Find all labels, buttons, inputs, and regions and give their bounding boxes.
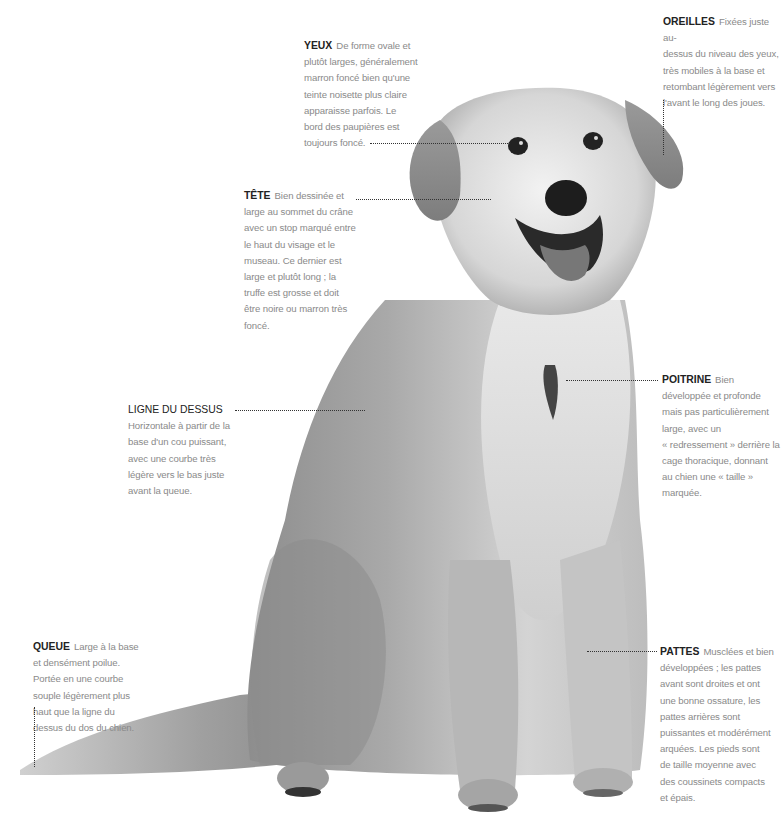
annotation-term: QUEUE	[33, 641, 70, 652]
annotation-text: marquée.	[662, 485, 784, 501]
leader-line-ligne-du-dessus	[235, 410, 365, 411]
annotation-text: Musclées et bien	[703, 646, 773, 657]
annotation-text: souple légèrement plus	[33, 688, 183, 704]
dog-anatomy-diagram: YEUXDe forme ovale et plutôt larges, gén…	[0, 0, 784, 840]
annotation-text: teinte noisette plus claire	[304, 87, 514, 103]
annotation-text: le haut du visage et le	[244, 237, 394, 253]
annotation-text: retombant légèrement vers	[663, 79, 784, 95]
annotation-text: légère vers le bas juste	[128, 467, 258, 483]
annotation-term: LIGNE DU DESSUS	[128, 404, 223, 415]
annotation-text: puissantes et modérément	[660, 725, 784, 741]
annotation-term: PATTES	[660, 646, 699, 657]
annotation-tete: TÊTEBien dessinée et large au sommet du …	[244, 188, 394, 334]
annotation-oreilles: OREILLESFixées juste au- dessus du nivea…	[663, 14, 784, 111]
annotation-text: base d'un cou puissant,	[128, 434, 258, 450]
annotation-text: de taille moyenne avec	[660, 757, 784, 773]
annotation-ligne-du-dessus: LIGNE DU DESSUS Horizontale à partir de …	[128, 402, 258, 499]
annotation-text: large au sommet du crâne	[244, 204, 394, 220]
annotation-pattes: PATTESMusclées et bien développées ; les…	[660, 644, 784, 806]
annotation-term: YEUX	[304, 40, 332, 51]
annotation-text: De forme ovale et	[336, 40, 410, 51]
annotation-text: des coussinets compacts	[660, 774, 784, 790]
annotation-text: Horizontale à partir de la	[128, 418, 258, 434]
annotation-text: apparaisse parfois. Le	[304, 103, 514, 119]
annotation-text: Bien dessinée et	[275, 190, 344, 201]
annotation-text: et densément poilue.	[33, 655, 183, 671]
leader-line-yeux	[370, 143, 510, 144]
annotation-poitrine: POITRINEBien développée et profonde mais…	[662, 372, 784, 502]
annotation-yeux: YEUXDe forme ovale et plutôt larges, gén…	[304, 38, 514, 151]
annotation-queue: QUEUELarge à la base et densément poilue…	[33, 639, 183, 736]
annotation-text: large, avec un	[662, 421, 784, 437]
leader-line-tete	[356, 199, 491, 200]
annotation-text: une bonne ossature, les	[660, 693, 784, 709]
annotation-text: « redressement » derrière la	[662, 437, 784, 453]
annotation-text: truffe est grosse et doit	[244, 285, 394, 301]
annotation-text: avant la queue.	[128, 483, 258, 499]
annotation-text: développée et profonde	[662, 388, 784, 404]
annotation-text: au chien une « taille »	[662, 469, 784, 485]
annotation-text: et épais.	[660, 790, 784, 806]
annotation-text: l'avant le long des joues.	[663, 95, 784, 111]
annotation-text: haut que la ligne du	[33, 704, 183, 720]
annotation-text: développées ; les pattes	[660, 660, 784, 676]
annotation-text: avec un stop marqué entre	[244, 220, 394, 236]
annotation-text: avant sont droites et ont	[660, 676, 784, 692]
leader-line-oreilles	[663, 100, 664, 155]
annotation-text: Bien	[715, 374, 734, 385]
annotation-text: mais pas particulièrement	[662, 404, 784, 420]
leader-line-poitrine	[566, 380, 658, 381]
annotation-term: OREILLES	[663, 16, 715, 27]
annotation-text: arquées. Les pieds sont	[660, 741, 784, 757]
annotation-term: POITRINE	[662, 374, 711, 385]
annotation-text: dessus du niveau des yeux,	[663, 46, 784, 62]
annotation-text: avec une courbe très	[128, 451, 258, 467]
annotation-text: bord des paupières est	[304, 119, 514, 135]
leader-line-queue	[34, 707, 35, 767]
annotation-text: dessus du dos du chien.	[33, 720, 183, 736]
annotation-text: être noire ou marron très	[244, 301, 394, 317]
annotation-text: large et plutôt long ; la	[244, 269, 394, 285]
leader-line-pattes	[587, 651, 657, 652]
annotation-text: très mobiles à la base et	[663, 63, 784, 79]
annotation-text: museau. Ce dernier est	[244, 253, 394, 269]
annotation-text: Large à la base	[74, 641, 139, 652]
annotation-text: cage thoracique, donnant	[662, 453, 784, 469]
annotation-text: plutôt larges, généralement	[304, 54, 514, 70]
annotation-text: pattes arrières sont	[660, 709, 784, 725]
annotation-term: TÊTE	[244, 190, 271, 201]
annotation-text: marron foncé bien qu'une	[304, 70, 514, 86]
annotation-text: foncé.	[244, 318, 394, 334]
annotation-text: Portée en une courbe	[33, 671, 183, 687]
